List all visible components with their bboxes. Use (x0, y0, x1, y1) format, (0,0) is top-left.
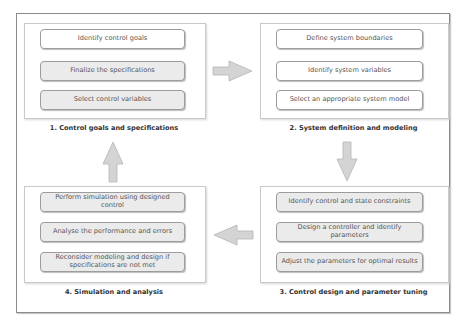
group-1-item-1: Identify control goals (40, 29, 185, 49)
arrow-right-icon (212, 60, 254, 82)
group-3-label: 3. Control design and parameter tuning (260, 288, 447, 296)
group-2-label: 2. System definition and modeling (260, 124, 447, 132)
item-text: Adjust the parameters for optimal result… (281, 258, 417, 266)
item-text: Reconsider modeling and design if specif… (44, 254, 181, 269)
group-2-item-1: Define system boundaries (276, 29, 423, 49)
group-4-label: 4. Simulation and analysis (24, 288, 204, 296)
arrow-left-icon (212, 224, 254, 246)
item-text: Analyse the performance and errors (53, 228, 172, 236)
arrow-up-icon (102, 141, 124, 183)
group-2-panel: Define system boundaries Identify system… (260, 23, 449, 119)
group-2-item-3: Select an appropriate system model (276, 90, 423, 110)
group-1-label: 1. Control goals and specifications (24, 124, 204, 132)
item-text: Perform simulation using designed contro… (44, 194, 181, 209)
group-4-item-1: Perform simulation using designed contro… (40, 192, 185, 212)
group-4-item-3: Reconsider modeling and design if specif… (40, 252, 185, 272)
item-text: Select an appropriate system model (290, 96, 410, 104)
group-3-panel: Identify control and state constraints D… (260, 186, 449, 283)
item-text: Identify system variables (308, 67, 391, 75)
group-1-panel: Identify control goals Finalize the spec… (24, 23, 206, 119)
item-text: Identify control and state constraints (289, 198, 411, 206)
group-4-item-2: Analyse the performance and errors (40, 222, 185, 242)
group-4-panel: Perform simulation using designed contro… (24, 186, 206, 283)
item-text: Select control variables (74, 96, 151, 104)
item-text: Design a controller and identify paramet… (280, 224, 419, 239)
item-text: Define system boundaries (306, 35, 392, 43)
group-3-item-2: Design a controller and identify paramet… (276, 222, 423, 242)
group-3-item-3: Adjust the parameters for optimal result… (276, 252, 423, 272)
group-1-item-3: Select control variables (40, 90, 185, 110)
item-text: Finalize the specifications (70, 67, 155, 75)
group-3-item-1: Identify control and state constraints (276, 192, 423, 212)
group-1-item-2: Finalize the specifications (40, 61, 185, 81)
group-2-item-2: Identify system variables (276, 61, 423, 81)
arrow-down-icon (336, 141, 358, 183)
item-text: Identify control goals (78, 35, 147, 43)
